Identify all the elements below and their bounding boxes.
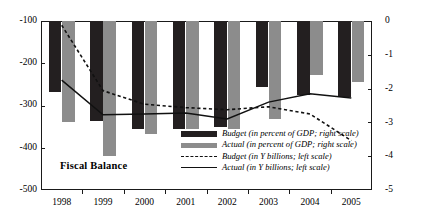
x-tick-mark — [331, 190, 332, 194]
legend-swatch-dashed-line-icon — [181, 151, 217, 162]
right-axis-tick-label: -2 — [385, 84, 393, 94]
left-axis-tick-label: -400 — [0, 143, 37, 153]
legend-swatch-solid-line-icon — [181, 162, 217, 173]
x-axis-label: 2001 — [165, 197, 206, 207]
x-tick-mark — [124, 190, 125, 194]
left-axis-tick-label: -200 — [0, 58, 37, 68]
x-axis-label: 2000 — [124, 197, 165, 207]
x-tick-mark — [82, 190, 83, 194]
legend-swatch-gray-bar-icon — [181, 140, 217, 151]
legend-label: Actual (in percent of GDP; right scale) — [222, 139, 357, 150]
right-tick-mark — [368, 156, 372, 157]
x-axis-label: 2003 — [248, 197, 289, 207]
legend-item: Actual (in Y billions; left scale) — [181, 162, 359, 173]
legend-item: Budget (in Y billions; left scale) — [181, 151, 359, 162]
x-tick-mark — [207, 190, 208, 194]
right-axis-tick-label: 0 — [385, 16, 390, 26]
right-tick-mark — [368, 122, 372, 123]
legend-item: Actual (in percent of GDP; right scale) — [181, 139, 359, 150]
legend-label: Actual (in Y billions; left scale) — [222, 162, 330, 173]
x-axis-label: 2002 — [207, 197, 248, 207]
chart-legend: Budget (in percent of GDP; right scale) … — [181, 128, 359, 174]
x-axis-label: 2005 — [331, 197, 372, 207]
x-axis-label: 1999 — [82, 197, 123, 207]
budget-billions-line — [62, 25, 352, 140]
right-tick-mark — [368, 89, 372, 90]
legend-label: Budget (in Y billions; left scale) — [222, 151, 332, 162]
x-tick-mark — [289, 190, 290, 194]
right-axis-tick-label: -5 — [385, 185, 393, 195]
left-tick-mark — [41, 106, 45, 107]
x-tick-mark — [248, 190, 249, 194]
x-axis-label: 2004 — [289, 197, 330, 207]
right-axis-tick-label: -3 — [385, 118, 393, 128]
left-axis-tick-label: -300 — [0, 100, 37, 110]
chart-title: Fiscal Balance — [60, 160, 127, 171]
legend-label: Budget (in percent of GDP; right scale) — [222, 128, 359, 139]
fiscal-balance-chart: -100 -200 -300 -400 -500 0 -1 -2 -3 -4 -… — [0, 0, 422, 220]
left-axis-tick-label: -100 — [0, 16, 37, 26]
legend-item: Budget (in percent of GDP; right scale) — [181, 128, 359, 139]
x-tick-mark — [165, 190, 166, 194]
left-tick-mark — [41, 148, 45, 149]
right-tick-mark — [368, 55, 372, 56]
right-axis-tick-label: -4 — [385, 151, 393, 161]
legend-swatch-dark-bar-icon — [181, 128, 217, 139]
right-axis-tick-label: -1 — [385, 50, 393, 60]
left-axis-tick-label: -500 — [0, 185, 37, 195]
left-tick-mark — [41, 63, 45, 64]
x-axis-label: 1998 — [41, 197, 82, 207]
